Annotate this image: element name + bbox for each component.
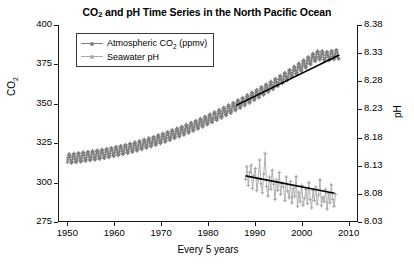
- y-axis-right-tick: [358, 138, 362, 139]
- y-axis-right-tick: [358, 53, 362, 54]
- series-ph: [244, 152, 338, 211]
- chart-legend: Atmospheric CO2 (ppmv) Seawater pH: [76, 33, 214, 67]
- x-axis-tick-label: 1950: [47, 227, 87, 238]
- y-axis-right-tick-label: 8.13: [364, 159, 408, 170]
- y-axis-right-tick-label: 8.18: [364, 131, 408, 142]
- y-axis-left-tick-label: 300: [12, 176, 52, 187]
- y-axis-right-tick-label: 8.08: [364, 187, 408, 198]
- x-axis-tick-label: 2000: [282, 227, 322, 238]
- y-axis-right-tick-label: 8.33: [364, 46, 408, 57]
- x-axis-tick-label: 1960: [94, 227, 134, 238]
- trendline-co2: [236, 55, 339, 105]
- y-axis-right-tick: [358, 194, 362, 195]
- y-axis-right-tick-label: 8.03: [364, 215, 408, 226]
- legend-label-co2-pre: Atmospheric CO: [107, 38, 173, 48]
- y-axis-left-tick-label: 325: [12, 136, 52, 147]
- y-axis-right-tick: [358, 222, 362, 223]
- legend-label-ph: Seawater pH: [107, 52, 159, 62]
- y-axis-right-tick-label: 8.38: [364, 18, 408, 29]
- y-axis-left-tick-label: 400: [12, 18, 52, 29]
- x-axis-tick: [349, 222, 350, 226]
- y-axis-right-tick: [358, 166, 362, 167]
- legend-label-co2-post: (ppmv): [177, 38, 208, 48]
- x-axis-tick: [255, 222, 256, 226]
- y-axis-left-label-pre: CO: [6, 81, 17, 96]
- y-axis-left-tick: [54, 222, 58, 223]
- chart-title-post: and pH Time Series in the North Pacific …: [102, 6, 331, 18]
- legend-item-co2: Atmospheric CO2 (ppmv): [81, 37, 207, 50]
- y-axis-left-tick-label: 375: [12, 57, 52, 68]
- legend-marker-ph-icon: [81, 52, 103, 61]
- x-axis-tick: [114, 222, 115, 226]
- x-axis-tick: [161, 222, 162, 226]
- y-axis-right-tick-label: 8.28: [364, 74, 408, 85]
- chart-title: CO2 and pH Time Series in the North Paci…: [0, 6, 414, 19]
- x-axis-tick-label: 1990: [235, 227, 275, 238]
- chart-title-pre: CO: [83, 6, 99, 18]
- y-axis-right-tick: [358, 81, 362, 82]
- legend-marker-co2-icon: [81, 39, 103, 48]
- y-axis-left-label: CO2: [6, 77, 19, 96]
- y-axis-left-tick-label: 275: [12, 215, 52, 226]
- y-axis-right-tick-label: 8.23: [364, 102, 408, 113]
- y-axis-left-label-subscript: 2: [12, 77, 19, 81]
- y-axis-right-tick: [358, 109, 362, 110]
- legend-item-ph: Seawater pH: [81, 50, 207, 63]
- legend-label-co2: Atmospheric CO2 (ppmv): [107, 38, 207, 50]
- chart-figure: CO2 and pH Time Series in the North Paci…: [0, 0, 414, 273]
- x-axis-tick-label: 1980: [188, 227, 228, 238]
- y-axis-left-tick-label: 350: [12, 97, 52, 108]
- x-axis-tick: [67, 222, 68, 226]
- x-axis-tick-label: 2010: [329, 227, 369, 238]
- x-axis-tick-label: 1970: [141, 227, 181, 238]
- x-axis-tick: [208, 222, 209, 226]
- x-axis-label: Every 5 years: [58, 244, 358, 255]
- x-axis-tick: [302, 222, 303, 226]
- y-axis-right-tick: [358, 25, 362, 26]
